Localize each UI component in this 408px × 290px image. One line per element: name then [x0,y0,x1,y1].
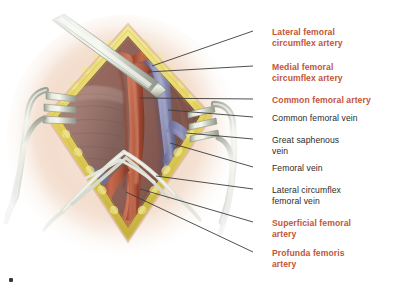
leader-line-common-femoral-vein [168,110,253,117]
leader-line-medial-femoral-circumflex-artery [148,66,253,72]
label-medial-femoral-circumflex-artery: Medial femoral circumflex artery [272,62,343,83]
leader-line-superficial-femoral-artery [140,189,253,222]
label-common-femoral-artery: Common femoral artery [272,95,371,106]
leader-line-femoral-vein [170,143,253,167]
label-superficial-femoral-artery: Superficial femoral artery [272,218,351,239]
leader-line-lateral-circumflex-femoral-vein [156,176,253,189]
figure-root: Lateral femoral circumflex arteryMedial … [0,0,408,290]
label-profunda-femoris-artery: Profunda femoris artery [272,248,345,269]
label-lateral-circumflex-femoral-vein: Lateral circumflex femoral vein [272,185,341,206]
leader-line-profunda-femoris-artery [126,192,253,252]
label-leader-lines [0,0,408,290]
label-lateral-femoral-circumflex-artery: Lateral femoral circumflex artery [272,27,343,48]
corner-mark [9,278,13,282]
label-great-saphenous-vein: Great saphenous vein [272,135,339,156]
leader-line-great-saphenous-vein [186,133,253,139]
leader-line-lateral-femoral-circumflex-artery [152,31,253,66]
label-femoral-vein: Femoral vein [272,163,323,174]
label-common-femoral-vein: Common femoral vein [272,113,358,124]
leader-line-common-femoral-artery [140,98,253,99]
